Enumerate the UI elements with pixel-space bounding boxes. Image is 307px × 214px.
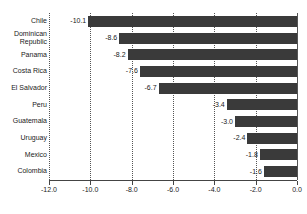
- bar: [264, 166, 297, 177]
- bar-row: [49, 66, 297, 77]
- bar-value-label: -2.4: [233, 134, 247, 141]
- x-axis-tick: [256, 181, 257, 185]
- bar: [159, 83, 297, 94]
- bar-value-label: -3.0: [221, 118, 235, 125]
- bar: [247, 133, 297, 144]
- category-label: Uruguay: [21, 134, 47, 143]
- bar-value-label: -1.8: [246, 151, 260, 158]
- x-axis-tick-label: -4.0: [208, 186, 220, 193]
- x-axis-tick-label: -12.0: [41, 186, 57, 193]
- bar-chart: -12.0-10.0-8.0-6.0-4.0-2.00.0 -10.1-8.6-…: [0, 0, 307, 214]
- bar-row: [49, 116, 297, 127]
- bar: [140, 66, 297, 77]
- bar-row: [49, 49, 297, 60]
- bar: [260, 149, 297, 160]
- x-axis-tick-label: -8.0: [126, 186, 138, 193]
- x-axis-tick: [173, 181, 174, 185]
- bar-value-label: -6.7: [144, 84, 158, 91]
- x-axis-tick: [90, 181, 91, 185]
- x-axis-tick: [297, 181, 298, 185]
- bar-row: [49, 133, 297, 144]
- category-label: Dominican Republic: [14, 30, 47, 47]
- bar-value-label: -1.6: [250, 168, 264, 175]
- category-label: Chile: [31, 17, 47, 26]
- x-axis-tick-label: -10.0: [82, 186, 98, 193]
- bar-value-label: -7.6: [126, 67, 140, 74]
- x-axis-tick-label: -6.0: [167, 186, 179, 193]
- category-label: Mexico: [25, 151, 47, 160]
- x-axis-tick: [132, 181, 133, 185]
- bar-value-label: -8.2: [113, 51, 127, 58]
- bar-row: [49, 33, 297, 44]
- bar-value-label: -8.6: [105, 34, 119, 41]
- x-axis-tick-label: 0.0: [292, 186, 302, 193]
- category-label: Costa Rica: [13, 67, 47, 76]
- bar: [227, 99, 297, 110]
- category-label: Peru: [32, 101, 47, 110]
- category-label: Panama: [21, 51, 47, 60]
- category-label: Colombia: [17, 167, 47, 176]
- gridline: [297, 13, 298, 180]
- category-label: Guatemala: [13, 117, 47, 126]
- bar-value-label: -3.4: [213, 101, 227, 108]
- bar-value-label: -10.1: [70, 17, 88, 24]
- x-axis-tick: [214, 181, 215, 185]
- x-axis-tick: [49, 181, 50, 185]
- bar: [88, 16, 297, 27]
- bar: [128, 49, 297, 60]
- bar-row: [49, 99, 297, 110]
- bar-row: [49, 83, 297, 94]
- category-label: El Salvador: [11, 84, 47, 93]
- bar: [235, 116, 297, 127]
- bar: [119, 33, 297, 44]
- bar-row: [49, 149, 297, 160]
- x-axis-tick-label: -2.0: [250, 186, 262, 193]
